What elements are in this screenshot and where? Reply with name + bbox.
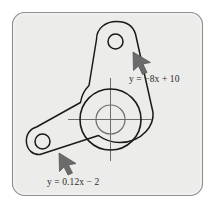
equation-label-upper: y = −8x + 10 <box>129 74 180 84</box>
bracket-drawing <box>0 0 219 208</box>
figure-container: y = −8x + 10 y = 0.12x − 2 <box>0 0 219 208</box>
equation-label-lower: y = 0.12x − 2 <box>47 177 99 187</box>
